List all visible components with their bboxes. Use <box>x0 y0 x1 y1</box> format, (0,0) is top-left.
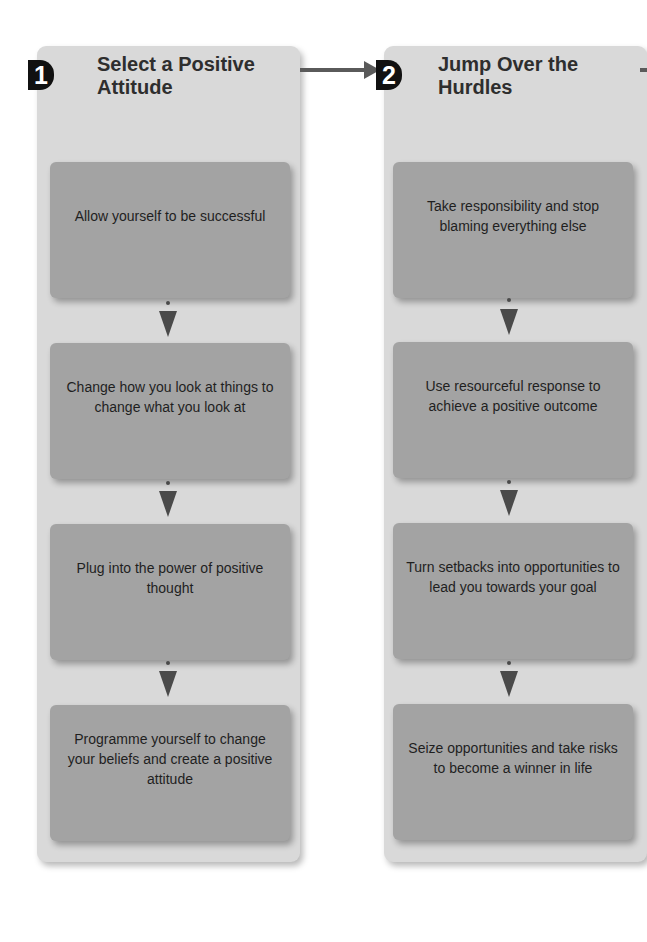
item-text: Seize opportunities and take risks to be… <box>405 738 621 778</box>
item-text: Change how you look at things to change … <box>62 377 278 417</box>
connector-dot <box>507 661 511 665</box>
item-text: Use resourceful response to achieve a po… <box>405 376 621 416</box>
step-1-number-badge: 1 <box>28 60 54 90</box>
item-text: Allow yourself to be successful <box>75 206 266 226</box>
down-arrow-icon <box>500 671 518 697</box>
down-arrow-icon <box>500 309 518 335</box>
connector-dot <box>507 298 511 302</box>
connector-dot <box>166 301 170 305</box>
item-text: Take responsibility and stop blaming eve… <box>405 196 621 236</box>
step-1-item-box: Allow yourself to be successful <box>50 162 290 298</box>
step-2-item-box: Seize opportunities and take risks to be… <box>393 704 633 840</box>
step-2-item-box: Turn setbacks into opportunities to lead… <box>393 523 633 659</box>
connector-dot <box>507 480 511 484</box>
step-2-item-box: Use resourceful response to achieve a po… <box>393 342 633 478</box>
step-1-item-box: Programme yourself to change your belief… <box>50 705 290 841</box>
connector-dot <box>166 481 170 485</box>
step-connector-outgoing-line <box>640 68 647 72</box>
down-arrow-icon <box>500 490 518 516</box>
item-text: Programme yourself to change your belief… <box>62 729 278 789</box>
step-2-item-box: Take responsibility and stop blaming eve… <box>393 162 633 298</box>
connector-dot <box>166 661 170 665</box>
step-1-title: Select a Positive Attitude <box>97 53 287 99</box>
step-2-number-badge: 2 <box>376 60 402 90</box>
step-connector-arrow-line <box>300 68 368 72</box>
flow-diagram: 1 Select a Positive Attitude 2 Jump Over… <box>0 0 647 942</box>
step-1-item-box: Plug into the power of positive thought <box>50 524 290 660</box>
down-arrow-icon <box>159 311 177 337</box>
item-text: Plug into the power of positive thought <box>62 558 278 598</box>
step-1-item-box: Change how you look at things to change … <box>50 343 290 479</box>
down-arrow-icon <box>159 671 177 697</box>
item-text: Turn setbacks into opportunities to lead… <box>405 557 621 597</box>
step-2-title: Jump Over the Hurdles <box>438 53 628 99</box>
down-arrow-icon <box>159 491 177 517</box>
